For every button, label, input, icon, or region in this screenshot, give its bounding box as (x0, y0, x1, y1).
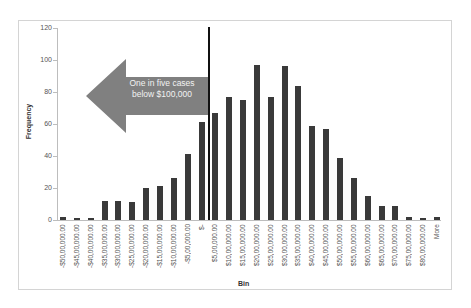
annotation-line-1: One in five cases (118, 78, 206, 89)
x-tick-label: -$40,00,000.00 (87, 224, 94, 290)
bar (434, 217, 440, 220)
x-tick-label: -$10,00,000.00 (170, 224, 177, 290)
x-tick-label: -$35,00,000.00 (101, 224, 108, 290)
bar (295, 86, 301, 220)
x-tick-label: $75,00,000.00 (405, 224, 412, 290)
bar (157, 186, 163, 220)
annotation-line-2: below $100,000 (118, 89, 206, 100)
x-tick-label: $70,00,000.00 (391, 224, 398, 290)
x-tick-label: -$20,00,000.00 (142, 224, 149, 290)
bar (337, 158, 343, 220)
x-tick-label: -$25,00,000.00 (128, 224, 135, 290)
y-tick-label: 40 (24, 152, 52, 159)
y-tick-label: 60 (24, 120, 52, 127)
bar (74, 218, 80, 220)
y-tick-label: 80 (24, 88, 52, 95)
bar (171, 178, 177, 220)
bar (102, 201, 108, 220)
bar (115, 201, 121, 220)
y-tick-label: 0 (24, 216, 52, 223)
bar (143, 188, 149, 220)
x-axis-title: Bin (238, 280, 249, 287)
x-tick-label: $55,00,000.00 (350, 224, 357, 290)
x-tick-label: $10,00,000.00 (225, 224, 232, 290)
bar (392, 206, 398, 220)
bar (309, 126, 315, 220)
bar (365, 196, 371, 220)
bar (199, 122, 205, 220)
x-tick-label: -$5,00,000.00 (184, 224, 191, 290)
bar (406, 217, 412, 220)
bar (254, 65, 260, 220)
y-tick-label: 100 (24, 56, 52, 63)
bar (226, 97, 232, 220)
bar (185, 154, 191, 220)
bar (60, 217, 66, 220)
bar (282, 66, 288, 220)
bar (323, 129, 329, 220)
x-tick-label: $50,00,000.00 (336, 224, 343, 290)
x-tick-label: $65,00,000.00 (378, 224, 385, 290)
x-tick-label: $- (198, 224, 205, 290)
bar (129, 202, 135, 220)
x-tick-label: $5,00,000.00 (211, 224, 218, 290)
x-tick-label: $25,00,000.00 (267, 224, 274, 290)
x-axis-line (57, 220, 441, 221)
x-tick-label: $45,00,000.00 (322, 224, 329, 290)
bar (351, 178, 357, 220)
x-tick-label: -$15,00,000.00 (156, 224, 163, 290)
annotation-text: One in five cases below $100,000 (118, 78, 206, 100)
y-tick-label: 120 (24, 24, 52, 31)
x-tick-label: $40,00,000.00 (308, 224, 315, 290)
bar (379, 206, 385, 220)
chart-frame (18, 20, 452, 290)
bar (240, 100, 246, 220)
x-tick-label: $60,00,000.00 (364, 224, 371, 290)
x-tick-label: $80,00,000.00 (419, 224, 426, 290)
bar (420, 218, 426, 220)
x-tick-label: $30,00,000.00 (281, 224, 288, 290)
x-tick-label: -$50,00,000.00 (59, 224, 66, 290)
x-tick-label: $35,00,000.00 (294, 224, 301, 290)
y-tick-label: 20 (24, 184, 52, 191)
x-tick-label: $20,00,000.00 (253, 224, 260, 290)
bar (212, 113, 218, 220)
bar (268, 97, 274, 220)
x-tick-label: More (433, 224, 440, 290)
y-axis-line (57, 28, 58, 221)
x-tick-label: -$30,00,000.00 (114, 224, 121, 290)
threshold-marker-line (208, 27, 210, 220)
bar (88, 218, 94, 220)
x-tick-label: -$45,00,000.00 (73, 224, 80, 290)
